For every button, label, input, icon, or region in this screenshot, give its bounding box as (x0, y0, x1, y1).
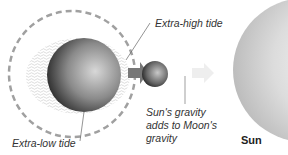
extra-low-tide-leader (80, 112, 84, 141)
moon (142, 61, 168, 87)
gravity-label-line3: gravity (146, 132, 177, 144)
extra-low-tide-label: Extra-low tide (12, 137, 76, 149)
sun (233, 0, 288, 142)
earth (47, 38, 121, 112)
gravity-label-line1: Sun's gravity (146, 106, 206, 118)
gravity-arrow-icon (192, 63, 214, 83)
sun-label: Sun (241, 134, 262, 146)
spring-tide-diagram (0, 0, 288, 155)
gravity-label-line2: adds to Moon's (146, 119, 217, 131)
extra-high-tide-leader (126, 23, 150, 60)
extra-high-tide-label: Extra-high tide (155, 17, 223, 29)
